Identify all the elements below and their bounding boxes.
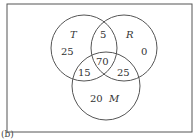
label-M: M	[108, 93, 120, 104]
region-T-R-M: 70	[96, 56, 109, 67]
region-M-only: 20	[90, 93, 103, 104]
venn-diagram: T R M 25 0 20 5 15 25 70	[0, 0, 194, 140]
region-R-only: 0	[141, 46, 147, 57]
universal-set-rect	[7, 4, 192, 132]
region-T-R: 5	[100, 29, 106, 40]
region-T-M: 15	[78, 67, 91, 78]
region-T-only: 25	[61, 46, 74, 57]
label-R: R	[125, 29, 134, 40]
label-T: T	[70, 29, 78, 40]
region-R-M: 25	[117, 67, 130, 78]
figure-caption: (b)	[1, 129, 14, 139]
